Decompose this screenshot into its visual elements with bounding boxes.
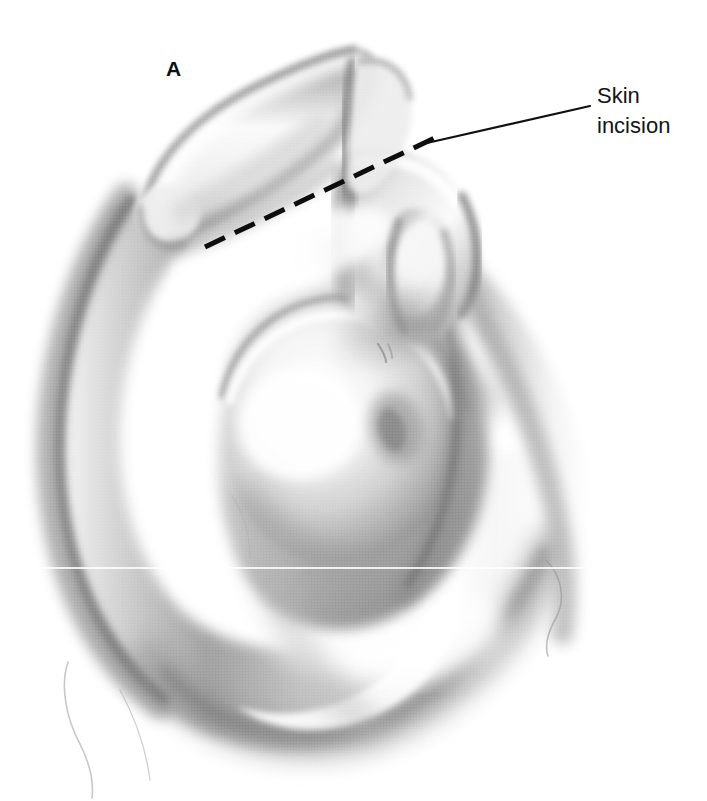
figure-container: A Skin incision — [0, 0, 707, 801]
shoulder-anatomy-illustration — [0, 0, 707, 801]
